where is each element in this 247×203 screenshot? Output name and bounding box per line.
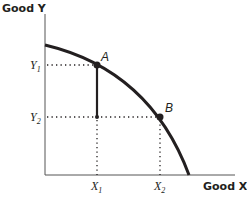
point-a-label: A (100, 50, 109, 64)
point-b-marker (157, 114, 164, 121)
x1-label: X1 (90, 179, 102, 195)
point-a-marker (94, 62, 101, 69)
point-b-label: B (165, 101, 173, 115)
y2-label: Y2 (30, 110, 41, 126)
y-axis-title: Good Y (2, 2, 47, 15)
x2-label: X2 (153, 179, 165, 195)
y2-x1-marker (95, 115, 99, 119)
x-axis-title: Good X (203, 180, 247, 193)
ppf-diagram: Good Y Good X A B Y1 Y2 X1 X2 (0, 0, 247, 203)
y1-label: Y1 (30, 58, 41, 74)
